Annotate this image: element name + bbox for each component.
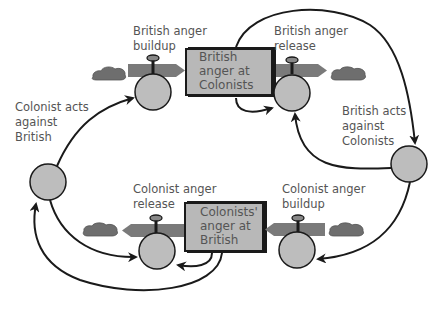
cloud-icon [329,223,363,236]
flow-rate-colonist-release[interactable] [139,233,175,269]
stock-british-anger[interactable]: British anger at Colonists [186,47,276,97]
flow-pipe-british-release [276,64,327,77]
flow-rate-colonist-buildup[interactable] [279,232,315,268]
link-arrow-british-anger-to-release [236,98,272,112]
flow-rate-british-release[interactable] [274,75,310,111]
aux-label-colonist-acts: Colonist acts against British [15,100,92,144]
flow-rate-british-buildup[interactable] [135,74,171,110]
stock-flow-diagram: British anger buildup British anger at C… [0,0,439,312]
stock-colonist-anger[interactable]: Colonists' anger at British [185,201,267,253]
link-arrow-colonist-anger-to-release [178,253,212,266]
aux-colonist-acts[interactable] [30,164,66,200]
flow-label-colonist-buildup: Colonist anger buildup [282,182,369,211]
flow-label-british-release: British anger release [274,24,352,53]
cloud-icon [83,223,117,236]
cloud-icon [92,67,125,80]
cloud-icon [331,67,365,80]
aux-label-british-acts: British acts against Colonists [342,104,410,148]
aux-british-acts[interactable] [391,146,427,182]
